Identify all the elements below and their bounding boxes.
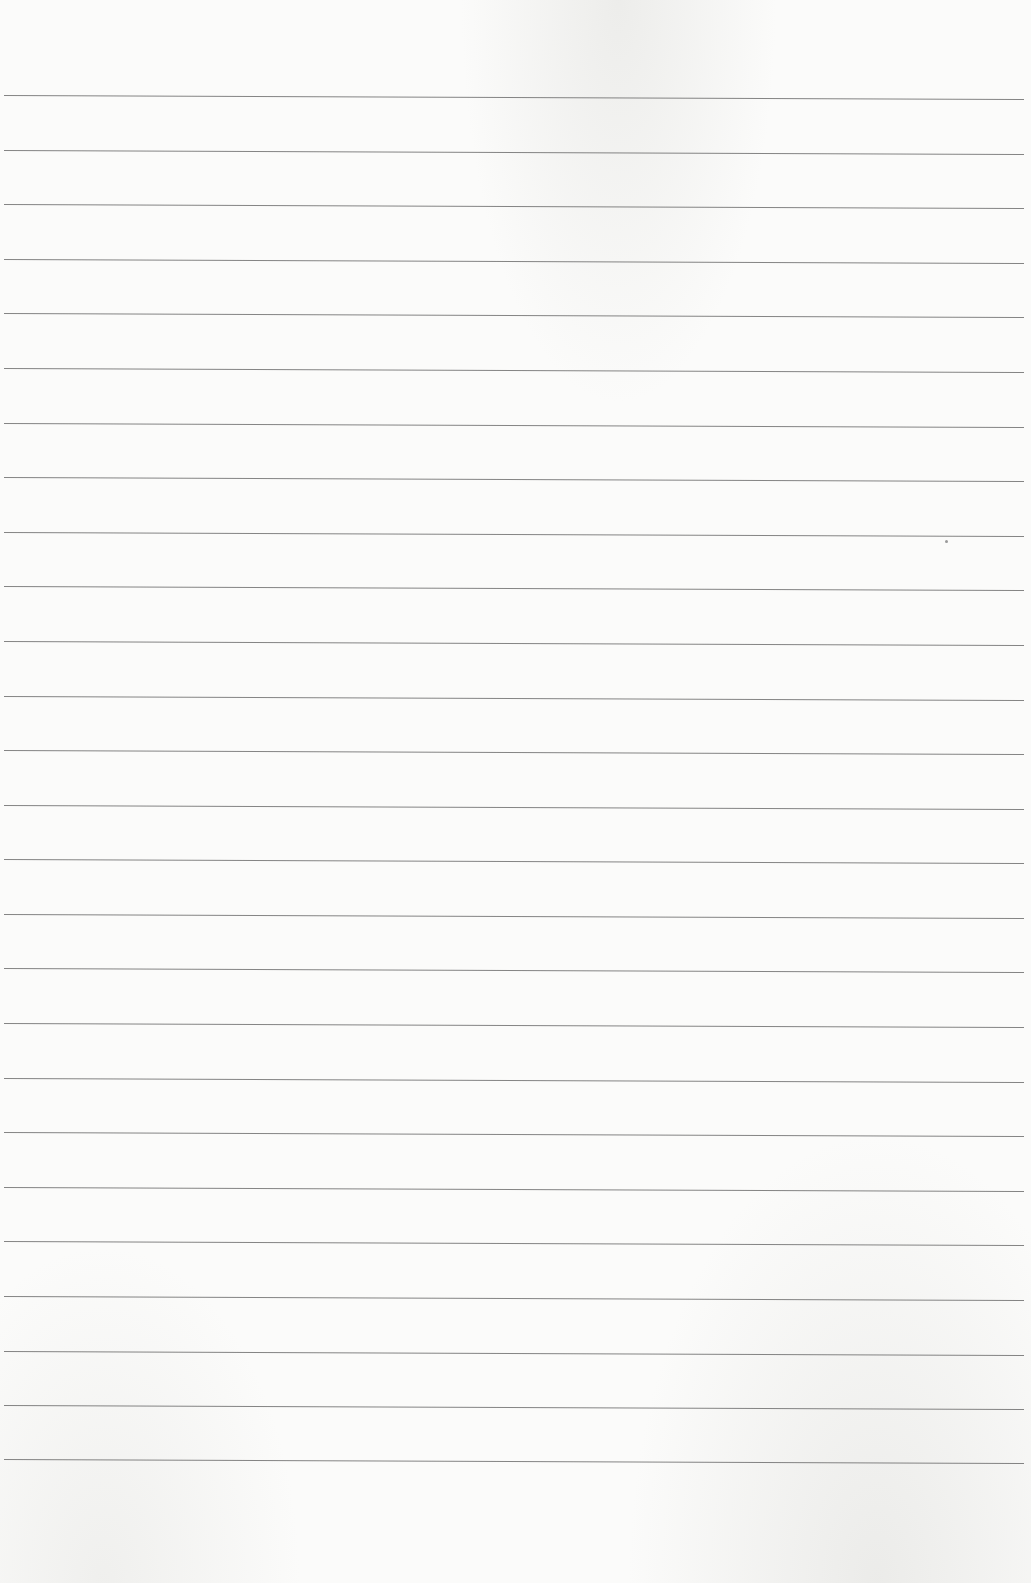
ruled-line bbox=[4, 586, 1024, 591]
ruled-line bbox=[4, 477, 1024, 482]
ruled-line bbox=[4, 1187, 1024, 1192]
ruled-line bbox=[4, 1405, 1024, 1410]
ruled-line bbox=[4, 1241, 1024, 1246]
ruled-line bbox=[4, 423, 1024, 428]
ruled-line bbox=[4, 696, 1024, 701]
lined-paper-sheet bbox=[0, 0, 1031, 1583]
ruled-line bbox=[4, 750, 1024, 755]
ruled-line bbox=[4, 1132, 1024, 1137]
ruled-line bbox=[4, 641, 1024, 646]
ruled-line bbox=[4, 1351, 1024, 1356]
ruled-line bbox=[4, 259, 1024, 264]
ruled-line bbox=[4, 532, 1024, 537]
ruled-line bbox=[4, 968, 1024, 973]
ruled-line bbox=[4, 1078, 1024, 1083]
ruled-line bbox=[4, 859, 1024, 864]
ruled-line bbox=[4, 1023, 1024, 1028]
ruled-line bbox=[4, 95, 1024, 100]
ruled-line bbox=[4, 805, 1024, 810]
ruled-line bbox=[4, 313, 1024, 318]
ruled-line bbox=[4, 1296, 1024, 1301]
ruled-line bbox=[4, 150, 1024, 155]
ruled-line bbox=[4, 204, 1024, 209]
ruled-line bbox=[4, 1459, 1024, 1464]
ruled-line bbox=[4, 914, 1024, 919]
paper-speck bbox=[945, 540, 948, 543]
ruled-line bbox=[4, 368, 1024, 373]
